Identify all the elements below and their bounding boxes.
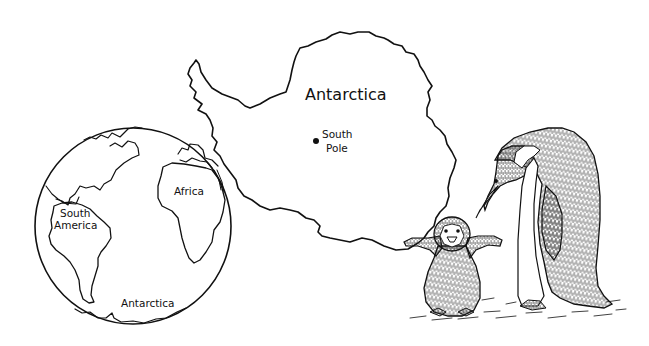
- penguin-chick: [404, 217, 502, 316]
- chick-left-eye: [444, 229, 448, 233]
- south-pole-label-1: South: [322, 128, 353, 140]
- globe-label-antarctica: Antarctica: [121, 297, 175, 309]
- africa-shape: [158, 163, 225, 263]
- globe: Africa South America Antarctica: [35, 127, 231, 324]
- adult-penguin: [476, 128, 612, 310]
- globe-label-south-america-1: South: [60, 207, 91, 219]
- antarctica-title: Antarctica: [305, 85, 387, 104]
- chick-face: [440, 224, 464, 247]
- south-pole-marker: [313, 138, 319, 144]
- adult-penguin-eye: [494, 179, 498, 183]
- south-pole-label-2: Pole: [326, 142, 348, 154]
- chick-right-eye: [456, 229, 460, 233]
- chick-body: [424, 246, 480, 316]
- north-america-coast: [56, 127, 142, 205]
- adult-penguin-beak: [476, 186, 498, 218]
- antarctica-illustration: Africa South America Antarctica Antarcti…: [0, 0, 649, 346]
- globe-label-africa: Africa: [174, 185, 204, 197]
- antarctica-outline: [188, 32, 456, 250]
- globe-label-south-america-2: America: [54, 219, 97, 231]
- chick-right-flipper: [466, 236, 502, 258]
- antarctica-map: Antarctica South Pole: [188, 32, 456, 250]
